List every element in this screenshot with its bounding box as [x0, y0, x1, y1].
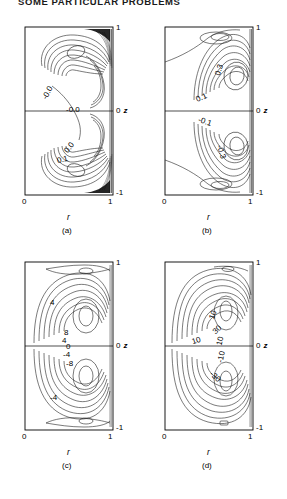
y-tick-b-top: 1: [256, 24, 260, 32]
y-tick-d-top: 1: [256, 259, 260, 267]
x-tick-d-right: 1: [248, 433, 252, 441]
y-axis-name-d: z: [260, 341, 267, 350]
contour-label-c-5: -4: [63, 351, 70, 359]
x-tick-d-left: 0: [162, 433, 166, 441]
y-axis-name-a: z: [120, 106, 127, 115]
x-axis-name-c: r: [67, 447, 70, 457]
x-axis-name-a: r: [67, 212, 70, 222]
panel-caption-a: (a): [62, 226, 72, 235]
x-axis-name-b: r: [207, 212, 210, 222]
panel-d: 10 30 10 10 -10 -30 1 0z -1 0 1 r (d): [164, 261, 276, 471]
panel-caption-b: (b): [202, 226, 212, 235]
y-tick-d-bottom: -1: [256, 424, 263, 432]
contour-plot-d: [164, 261, 254, 431]
panel-c: 4 8 4 0 -4 -8 -4 1 0z -1 0 1 r (c): [24, 261, 136, 471]
y-tick-c-top: 1: [116, 259, 120, 267]
y-tick-a-top: 1: [116, 24, 120, 32]
y-axis-label-c: 0z: [116, 341, 127, 350]
x-axis-name-d: r: [207, 447, 210, 457]
panel-a: -0.0 -0.0 0.0 0.1 1 0z -1 0 1 r (a): [24, 26, 136, 236]
y-axis-label-b: 0z: [256, 106, 267, 115]
y-axis-label-d: 0z: [256, 341, 267, 350]
contour-label-a-2: -0.0: [66, 106, 80, 114]
y-tick-c-bottom: -1: [116, 424, 123, 432]
x-tick-c-right: 1: [108, 433, 112, 441]
contour-plot-b: [164, 26, 254, 196]
y-axis-name-b: z: [260, 106, 267, 115]
running-header: SOME PARTICULAR PROBLEMS: [18, 0, 181, 7]
contour-label-c-6: -8: [66, 360, 73, 368]
x-tick-a-right: 1: [108, 198, 112, 206]
y-axis-label-a: 0z: [116, 106, 127, 115]
y-tick-a-bottom: -1: [116, 189, 123, 197]
panel-caption-d: (d): [202, 461, 212, 470]
y-axis-name-c: z: [120, 341, 127, 350]
panel-b: 0.3 0.1 -0.1 -0.3 1 0z -1 0 1 r (b): [164, 26, 276, 236]
panel-caption-c: (c): [62, 461, 71, 470]
x-tick-a-left: 0: [22, 198, 26, 206]
contour-label-c-1: 4: [50, 299, 54, 307]
x-tick-c-left: 0: [22, 433, 26, 441]
contour-label-c-7: -4: [50, 394, 57, 402]
x-tick-b-left: 0: [162, 198, 166, 206]
x-tick-b-right: 1: [248, 198, 252, 206]
y-tick-b-bottom: -1: [256, 189, 263, 197]
